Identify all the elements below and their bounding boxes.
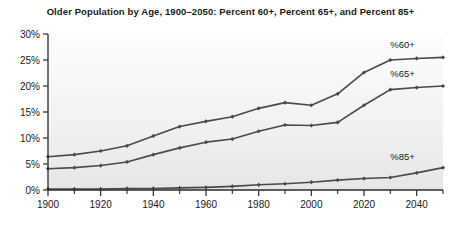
x-axis-tick-label: 1980 bbox=[248, 199, 271, 210]
x-axis-tick-label: 2020 bbox=[353, 199, 376, 210]
x-axis-tick-label: 2040 bbox=[406, 199, 429, 210]
x-axis-tick-label: 1940 bbox=[142, 199, 165, 210]
y-axis-tick-label: 30% bbox=[20, 29, 40, 40]
series-label-60plus: %60+ bbox=[390, 39, 415, 50]
y-axis-tick-label: 25% bbox=[20, 55, 40, 66]
y-axis-tick-label: 20% bbox=[20, 81, 40, 92]
y-axis: 0%5%10%15%20%25%30% bbox=[20, 29, 48, 196]
line-chart-plot: 0%5%10%15%20%25%30% 19001920194019601980… bbox=[0, 0, 461, 229]
y-axis-tick-label: 15% bbox=[20, 107, 40, 118]
x-axis-tick-label: 1920 bbox=[90, 199, 113, 210]
x-axis-tick-label: 1900 bbox=[37, 199, 60, 210]
series-label-65plus: %65+ bbox=[390, 68, 415, 79]
y-axis-tick-label: 0% bbox=[26, 185, 41, 196]
x-axis-tick-label: 2000 bbox=[300, 199, 323, 210]
y-axis-tick-label: 10% bbox=[20, 133, 40, 144]
chart-container: Older Population by Age, 1900–2050: Perc… bbox=[0, 0, 461, 229]
y-axis-tick-label: 5% bbox=[26, 159, 41, 170]
series-label-85plus: %85+ bbox=[390, 151, 415, 162]
x-axis-tick-label: 1960 bbox=[195, 199, 218, 210]
x-axis: 19001920194019601980200020202040 bbox=[37, 190, 443, 210]
